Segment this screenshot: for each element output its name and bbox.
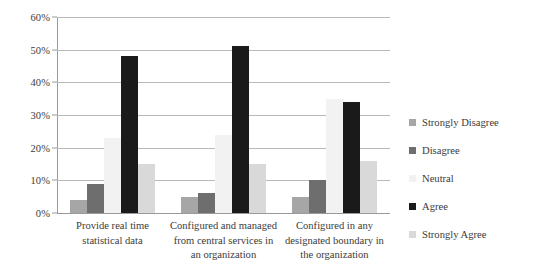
- category-label-line: Provide real time: [57, 219, 168, 234]
- y-axis-tick-label: 30%: [30, 110, 50, 121]
- x-axis-category-label: Configured and managedfrom central servi…: [168, 219, 279, 263]
- bar: [292, 197, 309, 213]
- y-axis-tick-label: 60%: [30, 12, 50, 23]
- bar: [343, 102, 360, 213]
- bar: [326, 99, 343, 213]
- x-axis-category-label: Configured in anydesignated boundary int…: [279, 219, 390, 263]
- legend-label: Neutral: [422, 173, 454, 184]
- bar-chart: 0%10%20%30%40%50%60% Provide real timest…: [0, 0, 534, 276]
- axis-baseline: [57, 213, 390, 214]
- chart-legend: Strongly DisagreeDisagreeNeutralAgreeStr…: [409, 108, 529, 248]
- bar: [121, 56, 138, 213]
- legend-swatch: [409, 119, 416, 126]
- y-axis-tick-label: 0%: [36, 208, 50, 219]
- bar: [232, 46, 249, 213]
- legend-swatch: [409, 147, 416, 154]
- legend-label: Disagree: [422, 145, 460, 156]
- category-label-line: Configured and managed: [168, 219, 279, 234]
- bar: [198, 193, 215, 213]
- bar-group: [279, 17, 390, 213]
- bar: [138, 164, 155, 213]
- category-label-line: the organization: [279, 248, 390, 263]
- y-axis-tick-label: 50%: [30, 44, 50, 55]
- category-label-line: Configured in any: [279, 219, 390, 234]
- bar-group: [168, 17, 279, 213]
- bar: [360, 161, 377, 213]
- legend-item[interactable]: Agree: [409, 192, 529, 220]
- legend-label: Agree: [422, 201, 448, 212]
- legend-swatch: [409, 231, 416, 238]
- y-axis-tick-label: 40%: [30, 77, 50, 88]
- y-axis-tick-label: 10%: [30, 175, 50, 186]
- bars-layer: [57, 17, 390, 213]
- y-axis-tick-label: 20%: [30, 142, 50, 153]
- category-label-line: from central services in: [168, 234, 279, 249]
- bar: [87, 184, 104, 213]
- legend-item[interactable]: Strongly Agree: [409, 220, 529, 248]
- bar: [249, 164, 266, 213]
- legend-item[interactable]: Strongly Disagree: [409, 108, 529, 136]
- x-axis-category-label: Provide real timestatistical data: [57, 219, 168, 248]
- legend-label: Strongly Agree: [422, 229, 486, 240]
- category-label-line: designated boundary in: [279, 234, 390, 249]
- x-axis-category-labels: Provide real timestatistical dataConfigu…: [57, 219, 390, 274]
- legend-label: Strongly Disagree: [422, 117, 499, 128]
- bar: [215, 135, 232, 213]
- bar: [104, 138, 121, 213]
- bar: [181, 197, 198, 213]
- plot-area: 0%10%20%30%40%50%60%: [57, 17, 390, 213]
- bar-group: [57, 17, 168, 213]
- legend-item[interactable]: Neutral: [409, 164, 529, 192]
- legend-swatch: [409, 203, 416, 210]
- category-label-line: statistical data: [57, 234, 168, 249]
- legend-swatch: [409, 175, 416, 182]
- legend-item[interactable]: Disagree: [409, 136, 529, 164]
- bar: [309, 180, 326, 213]
- bar: [70, 200, 87, 213]
- category-label-line: an organization: [168, 248, 279, 263]
